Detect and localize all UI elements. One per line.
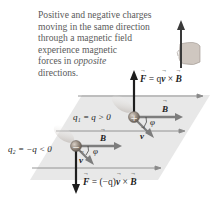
q1-label: q₁ = q > 0 <box>73 112 111 122</box>
right-hand-icon <box>177 20 200 68</box>
q2-phi-label: φ <box>93 146 98 156</box>
plus-sign: + <box>130 113 138 123</box>
force-equation-bottom: F = (−q)v × B <box>83 177 137 187</box>
q2-label: q₂ = −q < 0 <box>8 144 52 154</box>
q1-phi-label: φ <box>150 117 155 127</box>
q2-v-label: v <box>79 155 83 165</box>
q2-b-label: B <box>100 133 106 143</box>
q1-v-label: v <box>140 131 144 141</box>
q1-b-label: B <box>162 104 168 114</box>
diagram-canvas: + − <box>0 0 218 198</box>
force-equation-top: F = qv × B <box>140 74 182 84</box>
